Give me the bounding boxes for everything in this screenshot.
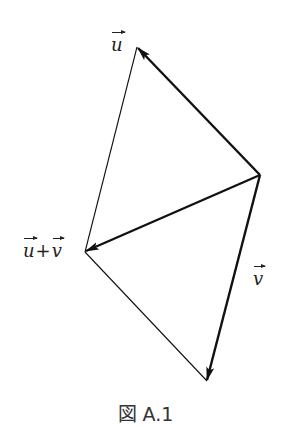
vector-addition-diagram (0, 0, 291, 435)
label-v: v (253, 264, 263, 288)
vector-u-arrow (138, 48, 260, 175)
label-u: u (111, 30, 123, 54)
vector-v-symbol: v (253, 264, 263, 288)
vector-u-symbol-sum: u (23, 236, 35, 260)
vector-sum-arrow (86, 175, 260, 251)
figure-caption: 図 A.1 (0, 399, 291, 426)
vector-u-symbol: u (111, 30, 123, 54)
vector-v-symbol-sum: v (52, 236, 62, 260)
edge-sum-to-v (85, 252, 207, 381)
plus-sign: + (36, 240, 51, 261)
label-u-plus-v: u+v (23, 236, 62, 260)
edge-u-to-sum (85, 47, 137, 252)
